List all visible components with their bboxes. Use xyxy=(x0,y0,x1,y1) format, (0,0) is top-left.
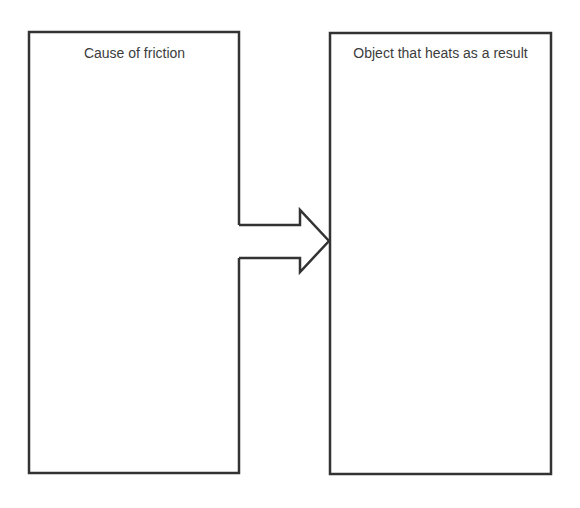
left-box-title: Cause of friction xyxy=(29,45,240,61)
right-box-title: Object that heats as a result xyxy=(330,45,551,61)
left-box-outline xyxy=(29,32,239,473)
arrow-right-icon xyxy=(239,210,329,272)
right-box-outline xyxy=(330,33,551,474)
diagram-canvas xyxy=(0,0,580,508)
